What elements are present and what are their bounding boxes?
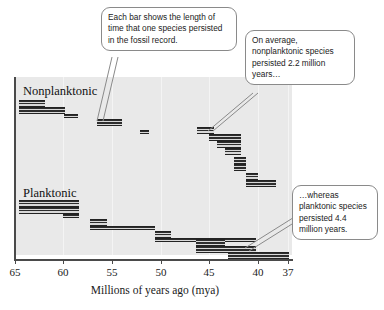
bar-nonplanktonic-1: [19, 100, 45, 107]
tick-label-50: 50: [156, 266, 167, 278]
bar-nonplanktonic-6: [197, 127, 214, 134]
callout-nonplanktonic-average: On average, nonplanktonic species persis…: [245, 30, 355, 85]
bar-nonplanktonic-13: [246, 180, 276, 187]
bar-nonplanktonic-12: [246, 173, 258, 180]
tick-mark-55: [112, 259, 113, 264]
group-label-planktonic: Planktonic: [23, 186, 76, 201]
tick-mark-40: [258, 259, 259, 264]
tick-mark-50: [161, 259, 162, 264]
bar-planktonic-6: [155, 231, 171, 238]
gridline-40: [258, 77, 259, 255]
tick-label-40: 40: [253, 266, 264, 278]
x-axis-title: Millions of years ago (mya): [0, 284, 310, 296]
bar-planktonic-4: [90, 219, 107, 226]
tick-label-37: 37: [283, 266, 294, 278]
group-label-nonplanktonic: Nonplanktonic: [23, 84, 97, 99]
fossil-duration-figure: 65 60 55 50 45 40 37 Millions of years a…: [0, 0, 384, 310]
bar-nonplanktonic-9: [225, 148, 241, 155]
gridline-60: [63, 77, 64, 255]
bar-planktonic-1: [19, 200, 79, 207]
bar-nonplanktonic-3: [64, 114, 78, 118]
bar-planktonic-10: [228, 252, 289, 259]
gridline-37: [288, 77, 289, 255]
bar-nonplanktonic-7: [209, 134, 241, 141]
tick-label-55: 55: [107, 266, 118, 278]
bar-nonplanktonic-4: [97, 119, 122, 126]
bar-planktonic-5: [90, 226, 155, 230]
callout-bar-meaning: Each bar shows the length of time that o…: [101, 7, 237, 51]
tick-mark-45: [209, 259, 210, 264]
bar-nonplanktonic-11: [234, 164, 246, 171]
tick-mark-60: [63, 259, 64, 264]
bar-nonplanktonic-5: [140, 130, 149, 134]
y-axis-line: [14, 77, 16, 259]
bar-planktonic-3: [63, 214, 79, 218]
x-axis-line: [14, 259, 293, 261]
tick-label-60: 60: [58, 266, 69, 278]
bar-planktonic-2: [19, 207, 79, 214]
gridline-45: [209, 77, 210, 255]
tick-mark-37: [288, 259, 289, 264]
bar-nonplanktonic-8: [217, 141, 241, 148]
bar-nonplanktonic-10: [234, 157, 246, 164]
bar-planktonic-8: [196, 239, 225, 246]
tick-mark-65: [15, 259, 16, 264]
gridline-50: [161, 77, 162, 255]
callout-planktonic-average: …whereas planktonic species persisted 4.…: [292, 185, 378, 240]
tick-label-65: 65: [10, 266, 21, 278]
bar-nonplanktonic-2: [19, 107, 65, 114]
tick-label-45: 45: [204, 266, 215, 278]
